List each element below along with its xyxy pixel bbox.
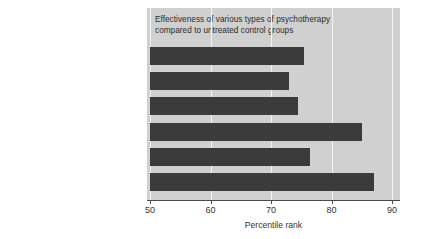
bar-row (150, 47, 304, 65)
bar-row (150, 72, 289, 90)
bar-row (150, 173, 374, 191)
bar-client-centered (150, 72, 289, 90)
tick-80 (332, 200, 333, 204)
bar-systematic-desensitization (150, 123, 362, 141)
tick-label-50: 50 (135, 205, 165, 215)
bar-transactional-analysis (150, 97, 298, 115)
bar-row (150, 123, 362, 141)
plot-panel: Effectiveness of various types of psycho… (147, 8, 400, 200)
bar-row (150, 148, 310, 166)
tick-70 (271, 200, 272, 204)
bar-psychoanalytic (150, 47, 304, 65)
bar-chart-figure: Effectiveness of various types of psycho… (0, 0, 426, 239)
bar-cognitive-behavioral (150, 173, 374, 191)
tick-60 (211, 200, 212, 204)
bars-group (147, 8, 400, 200)
tick-label-90: 90 (377, 205, 407, 215)
x-axis-label: Percentile rank (147, 220, 400, 230)
tick-label-70: 70 (256, 205, 286, 215)
tick-50 (150, 200, 151, 204)
bar-row (150, 97, 298, 115)
tick-label-60: 60 (196, 205, 226, 215)
tick-90 (392, 200, 393, 204)
bar-behavior-modification (150, 148, 310, 166)
tick-label-80: 80 (317, 205, 347, 215)
x-axis-line (147, 200, 400, 201)
